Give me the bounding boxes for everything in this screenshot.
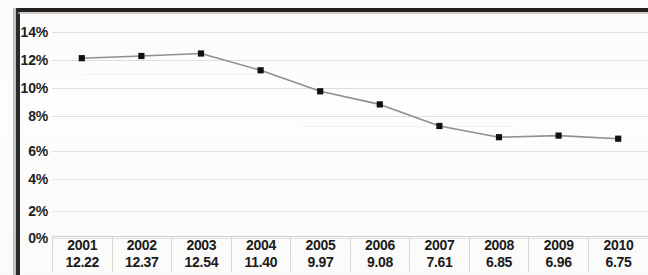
data-point-marker bbox=[198, 50, 204, 56]
table-cell-value: 12.22 bbox=[53, 255, 113, 272]
data-point-marker bbox=[436, 123, 442, 129]
line-series-svg bbox=[52, 18, 648, 240]
data-point-marker bbox=[79, 55, 85, 61]
y-tick-label-8: 8% bbox=[4, 109, 48, 123]
table-cell-value: 6.75 bbox=[588, 255, 648, 272]
chart-frame-top-shadow bbox=[18, 12, 648, 14]
data-table: 2001200220032004200520062007200820092010… bbox=[52, 237, 648, 275]
data-point-marker bbox=[496, 134, 502, 140]
table-cell-value: 9.97 bbox=[291, 255, 351, 272]
table-cell-year: 2007 bbox=[410, 237, 470, 255]
table-cell-year: 2003 bbox=[172, 237, 232, 255]
y-tick-label-10: 10% bbox=[4, 81, 48, 95]
data-point-marker bbox=[615, 136, 621, 142]
table-cell-value: 11.40 bbox=[231, 255, 291, 272]
table-cell-value: 12.37 bbox=[112, 255, 172, 272]
table-cell-year: 2001 bbox=[53, 237, 113, 255]
data-point-marker bbox=[556, 133, 562, 139]
series-markers bbox=[79, 50, 622, 141]
table-cell-year: 2010 bbox=[588, 237, 648, 255]
y-tick-label-2: 2% bbox=[4, 204, 48, 218]
data-point-marker bbox=[138, 53, 144, 59]
table-cell-value: 12.54 bbox=[172, 255, 232, 272]
table-cell-year: 2009 bbox=[529, 237, 589, 255]
y-tick-label-4: 4% bbox=[4, 172, 48, 186]
table-cell-year: 2008 bbox=[469, 237, 529, 255]
y-tick-label-14: 14% bbox=[4, 25, 48, 39]
table-row-values: 12.2212.3712.5411.409.979.087.616.856.96… bbox=[53, 255, 648, 272]
table-cell-year: 2005 bbox=[291, 237, 351, 255]
plot-area bbox=[52, 18, 648, 240]
table-cell-year: 2002 bbox=[112, 237, 172, 255]
table-cell-value: 9.08 bbox=[350, 255, 410, 272]
table-cell-value: 6.85 bbox=[469, 255, 529, 272]
table-row-years: 2001200220032004200520062007200820092010 bbox=[53, 237, 648, 255]
chart-screenshot: 14% 12% 10% 8% 6% 4% 2% 0% 2001200220032… bbox=[0, 0, 648, 275]
data-table-grid: 2001200220032004200520062007200820092010… bbox=[52, 237, 648, 272]
table-cell-year: 2006 bbox=[350, 237, 410, 255]
y-tick-label-0: 0% bbox=[4, 231, 48, 245]
data-point-marker bbox=[377, 101, 383, 107]
y-tick-label-6: 6% bbox=[4, 144, 48, 158]
series-line bbox=[82, 54, 618, 139]
y-axis-tick-labels: 14% 12% 10% 8% 6% 4% 2% 0% bbox=[0, 18, 48, 240]
y-tick-label-12: 12% bbox=[4, 53, 48, 67]
table-cell-year: 2004 bbox=[231, 237, 291, 255]
table-cell-value: 6.96 bbox=[529, 255, 589, 272]
data-point-marker bbox=[317, 88, 323, 94]
data-point-marker bbox=[258, 67, 264, 73]
table-cell-value: 7.61 bbox=[410, 255, 470, 272]
